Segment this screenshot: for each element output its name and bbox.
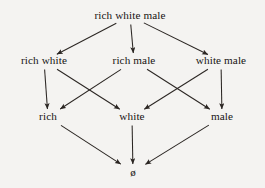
node-white: white (119, 111, 144, 122)
node-white-male: white male (196, 55, 246, 66)
node-rich-white-male: rich white male (94, 10, 165, 21)
edge-male-to-empty-set (145, 125, 208, 164)
edge-rich-white-to-rich (45, 70, 48, 110)
edge-rich-white-male-to-white-male (144, 23, 208, 55)
node-rich-white: rich white (21, 55, 67, 66)
node-male: male (211, 111, 233, 122)
edge-layer (0, 0, 265, 188)
node-empty-set: ø (130, 167, 136, 178)
edge-rich-male-to-male (147, 69, 210, 109)
lattice-diagram: rich white male rich white rich male whi… (0, 0, 265, 188)
edge-white-to-empty-set (132, 126, 133, 165)
node-rich-male: rich male (113, 55, 156, 66)
edge-rich-male-to-rich (60, 69, 121, 109)
edge-rich-white-male-to-rich-male (131, 25, 134, 54)
edge-white-male-to-white (144, 69, 208, 109)
edge-rich-to-empty-set (61, 125, 121, 164)
node-rich: rich (39, 111, 57, 122)
edge-group (45, 23, 222, 165)
edge-rich-white-to-white (57, 69, 120, 109)
edge-rich-white-male-to-rich-white (57, 23, 116, 54)
edge-white-male-to-male (221, 70, 222, 110)
